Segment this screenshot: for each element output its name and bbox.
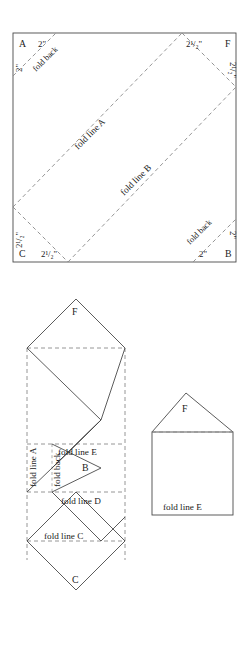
- flap-b-label: B: [82, 462, 89, 473]
- dim-bottom-left-vertical: 2¹/₂": [14, 231, 24, 248]
- diagram-right-envelope: F fold line E: [152, 393, 233, 515]
- fold-line-e-label: fold line E: [58, 447, 97, 457]
- envelope-flap-label: F: [182, 403, 188, 414]
- dim-top-left-horizontal: 2": [38, 39, 46, 49]
- corner-label-f: F: [225, 38, 231, 49]
- fold-line-b-label: fold line B: [118, 163, 153, 198]
- corner-label-b: B: [225, 248, 232, 259]
- envelope-fold-line-e-label: fold line E: [163, 502, 202, 512]
- fold-line-d-label: fold line D: [61, 496, 101, 506]
- dim-bottom-right-vertical: 2": [228, 231, 238, 239]
- fold-line-b-line: [68, 87, 236, 262]
- fold-back-label-bottom-right: fold back: [185, 217, 214, 246]
- corner-label-c: C: [19, 248, 26, 259]
- fold-back-label-vertical: fold back: [52, 452, 62, 487]
- folding-diagram-svg: A F C B 2" 2" 2¹/₂" 2¹/₂" 2¹/₂" 2¹/₂" 2"…: [0, 0, 249, 652]
- dim-bottom-right-horizontal: 2": [199, 249, 207, 259]
- diagram-middle-strip: F C B fold line A fold back fold line E …: [27, 299, 125, 590]
- dim-top-left-vertical: 2": [14, 64, 24, 72]
- fold-line-a-label-vertical: fold line A: [28, 447, 38, 487]
- dim-top-right-horizontal: 2¹/₂": [186, 39, 203, 49]
- flap-c-label: C: [72, 574, 79, 585]
- dim-bottom-left-horizontal: 2¹/₂": [41, 249, 58, 259]
- envelope-flap-outline: [152, 393, 233, 432]
- fold-line-c-label: fold line C: [44, 531, 83, 541]
- diagram-top-square: A F C B 2" 2" 2¹/₂" 2¹/₂" 2¹/₂" 2¹/₂" 2"…: [13, 33, 238, 262]
- fold-line-a-label: fold line A: [72, 116, 107, 151]
- corner-label-a: A: [19, 38, 26, 49]
- dim-top-right-vertical: 2¹/₂": [228, 62, 238, 79]
- figure-canvas: A F C B 2" 2" 2¹/₂" 2¹/₂" 2¹/₂" 2¹/₂" 2"…: [0, 0, 249, 652]
- zigzag-upper: [27, 348, 125, 420]
- flap-f-label: F: [72, 306, 78, 317]
